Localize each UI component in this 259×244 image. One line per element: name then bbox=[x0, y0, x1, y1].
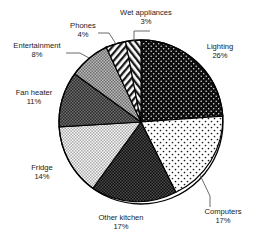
pie-chart-figure: Wet appliances 3% Phones 4% Entertainmen… bbox=[0, 0, 259, 244]
slice-label-phones-value: 4% bbox=[61, 30, 105, 39]
slice-label-other-kitchen-value: 17% bbox=[83, 222, 159, 231]
slice-label-fridge: Fridge 14% bbox=[20, 163, 64, 182]
slice-label-other-kitchen-name: Other kitchen bbox=[98, 213, 143, 222]
slice-label-wet-appliances: Wet appliances 3% bbox=[110, 8, 182, 27]
slice-label-fridge-value: 14% bbox=[20, 172, 64, 181]
slice-label-entertainment-value: 8% bbox=[8, 50, 66, 59]
slice-label-wet-appliances-value: 3% bbox=[110, 17, 182, 26]
slice-label-lighting-value: 26% bbox=[196, 51, 244, 60]
leader-line-entertainment bbox=[66, 53, 89, 58]
slice-label-lighting-name: Lighting bbox=[207, 42, 234, 51]
slice-label-fan-heater-value: 11% bbox=[6, 97, 62, 106]
slice-label-entertainment: Entertainment 8% bbox=[8, 41, 66, 60]
slice-label-phones: Phones 4% bbox=[61, 21, 105, 40]
slice-label-wet-appliances-name: Wet appliances bbox=[120, 8, 172, 17]
slice-label-lighting: Lighting 26% bbox=[196, 42, 244, 61]
slice-label-fridge-name: Fridge bbox=[31, 163, 53, 172]
slice-label-phones-name: Phones bbox=[70, 21, 96, 30]
slice-label-computers-value: 17% bbox=[194, 216, 252, 225]
slice-label-other-kitchen: Other kitchen 17% bbox=[83, 213, 159, 232]
leader-line-computers bbox=[200, 175, 210, 207]
slice-label-fan-heater: Fan heater 11% bbox=[6, 88, 62, 107]
slice-label-computers-name: Computers bbox=[204, 207, 241, 216]
slice-label-entertainment-name: Entertainment bbox=[13, 41, 60, 50]
slice-label-computers: Computers 17% bbox=[194, 207, 252, 226]
slice-label-fan-heater-name: Fan heater bbox=[16, 88, 53, 97]
